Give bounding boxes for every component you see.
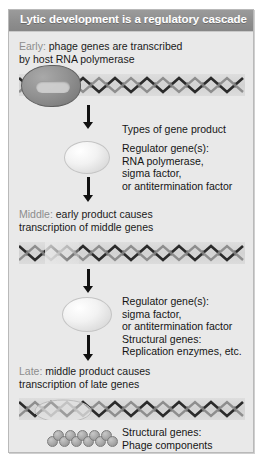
annotation-block-3: Structural genes: Phage components <box>122 426 212 451</box>
stage-keyword-early: Early: <box>19 40 46 52</box>
annotation-block-1-line-1: Regulator gene(s): <box>122 142 232 155</box>
annotation-block-2-line-3: or antitermination factor <box>122 320 242 333</box>
dna-helix-late-svg <box>19 398 245 420</box>
phage-component-chain <box>47 430 117 448</box>
annotation-block-3-line-2: Phage components <box>122 439 212 452</box>
annotation-block-1-line-2: RNA polymerase, <box>122 155 232 168</box>
lytic-development-figure: Lytic development is a regulatory cascad… <box>8 9 254 453</box>
annotation-block-2-line-4: Structural genes: <box>122 333 242 346</box>
stage-line1-middle: early product causes <box>53 208 153 220</box>
annotation-block-2-line-5: Replication enzymes, etc. <box>122 345 242 358</box>
stage-line2-early: by host RNA polymerase <box>19 53 182 66</box>
stage-line2-middle: transcription of middle genes <box>19 221 153 234</box>
down-arrow-1 <box>83 105 94 129</box>
annotation-block-1-line-3: sigma factor, <box>122 167 232 180</box>
down-arrow-2 <box>83 177 94 202</box>
stage-keyword-late: Late: <box>19 365 42 377</box>
types-of-gene-product-label: Types of gene product <box>122 123 226 136</box>
annotation-block-1: Regulator gene(s): RNA polymerase, sigma… <box>122 142 232 192</box>
stage-line1-early: phage genes are transcribed <box>46 40 183 52</box>
annotation-block-3-line-1: Structural genes: <box>122 426 212 439</box>
stage-line2-late: transcription of late genes <box>19 378 150 391</box>
protein-product-oval-1 <box>64 141 110 174</box>
down-arrow-4 <box>83 335 94 361</box>
dna-helix-middle <box>19 242 245 264</box>
stage-keyword-middle: Middle: <box>19 208 53 220</box>
figure-title-bar: Lytic development is a regulatory cascad… <box>9 10 253 32</box>
annotation-block-2: Regulator gene(s): sigma factor, or anti… <box>122 295 242 358</box>
figure-title: Lytic development is a regulatory cascad… <box>20 13 247 25</box>
polymerase-cleft <box>36 81 70 93</box>
protein-product-oval-2 <box>62 297 112 332</box>
stage-label-early: Early: phage genes are transcribed by ho… <box>19 40 182 65</box>
stage-label-late: Late: middle product causes transcriptio… <box>19 365 150 390</box>
annotation-block-2-line-1: Regulator gene(s): <box>122 295 242 308</box>
stage-label-middle: Middle: early product causes transcripti… <box>19 208 153 233</box>
dna-middle-fade <box>45 242 79 264</box>
annotation-block-1-line-4: or antitermination factor <box>122 180 232 193</box>
down-arrow-3 <box>83 269 94 293</box>
stage-line1-late: middle product causes <box>42 365 150 377</box>
dna-helix-late <box>19 398 245 420</box>
rna-polymerase-blob <box>21 65 81 107</box>
annotation-block-2-line-2: sigma factor, <box>122 308 242 321</box>
